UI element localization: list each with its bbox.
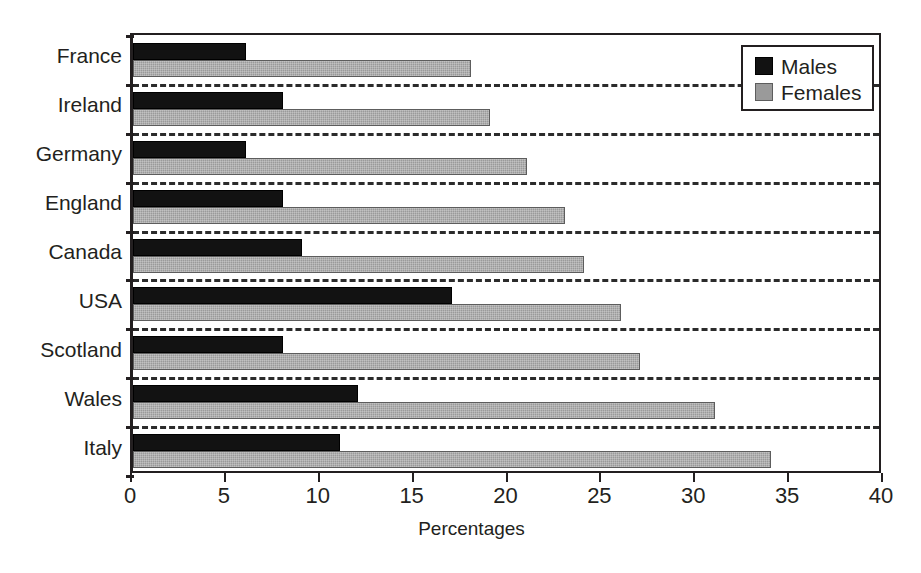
category-label-scotland: Scotland bbox=[0, 339, 122, 361]
category-label-france: France bbox=[0, 45, 122, 67]
bar-males-canada[interactable] bbox=[133, 239, 302, 256]
bar-males-germany[interactable] bbox=[133, 141, 246, 158]
category-label-ireland: Ireland bbox=[0, 94, 122, 116]
x-axis-title: Percentages bbox=[0, 518, 921, 540]
legend-label-males: Males bbox=[781, 56, 837, 77]
x-axis-tick-label: 0 bbox=[124, 484, 136, 508]
x-axis-tick-label: 40 bbox=[869, 484, 893, 508]
bar-females-italy[interactable] bbox=[133, 451, 771, 468]
y-axis-tick bbox=[126, 328, 134, 331]
bar-females-germany[interactable] bbox=[133, 158, 527, 175]
x-axis-tick bbox=[506, 473, 508, 482]
bar-females-canada[interactable] bbox=[133, 256, 584, 273]
legend: Males Females bbox=[741, 45, 874, 111]
bar-males-wales[interactable] bbox=[133, 385, 358, 402]
x-axis-tick bbox=[318, 473, 320, 482]
legend-item-females[interactable]: Females bbox=[755, 79, 872, 105]
bar-group-england bbox=[133, 182, 879, 231]
bar-males-france[interactable] bbox=[133, 43, 246, 60]
y-axis-tick bbox=[126, 133, 134, 136]
bar-group-italy bbox=[133, 426, 879, 471]
x-axis-tick bbox=[412, 473, 414, 482]
bar-group-canada bbox=[133, 231, 879, 280]
y-axis-tick bbox=[126, 84, 134, 87]
category-label-wales: Wales bbox=[0, 388, 122, 410]
x-axis-title-label: Percentages bbox=[418, 518, 525, 540]
category-label-england: England bbox=[0, 192, 122, 214]
bar-chart: FranceIrelandGermanyEnglandCanadaUSAScot… bbox=[0, 0, 921, 573]
bar-males-italy[interactable] bbox=[133, 434, 340, 451]
x-axis-tick bbox=[599, 473, 601, 482]
bar-group-germany bbox=[133, 133, 879, 182]
males-swatch-icon bbox=[755, 57, 773, 75]
females-swatch-icon bbox=[755, 83, 773, 101]
bar-females-usa[interactable] bbox=[133, 304, 621, 321]
x-axis-tick-label: 15 bbox=[399, 484, 423, 508]
bar-group-usa bbox=[133, 279, 879, 328]
x-axis-tick-label: 5 bbox=[218, 484, 230, 508]
x-axis-tick-label: 30 bbox=[681, 484, 705, 508]
bar-females-wales[interactable] bbox=[133, 402, 715, 419]
y-axis-tick bbox=[126, 279, 134, 282]
x-axis-tick-label: 25 bbox=[587, 484, 611, 508]
category-label-italy: Italy bbox=[0, 437, 122, 459]
bar-females-scotland[interactable] bbox=[133, 353, 640, 370]
legend-label-females: Females bbox=[781, 82, 862, 103]
x-axis-tick-label: 20 bbox=[493, 484, 517, 508]
category-label-canada: Canada bbox=[0, 241, 122, 263]
bar-males-england[interactable] bbox=[133, 190, 283, 207]
bar-group-wales bbox=[133, 377, 879, 426]
x-axis-tick-label: 10 bbox=[306, 484, 330, 508]
y-axis-tick bbox=[126, 377, 134, 380]
x-axis-tick bbox=[787, 473, 789, 482]
legend-item-males[interactable]: Males bbox=[755, 53, 872, 79]
x-axis-tick bbox=[224, 473, 226, 482]
bar-females-france[interactable] bbox=[133, 60, 471, 77]
x-axis-tick bbox=[693, 473, 695, 482]
y-axis-tick bbox=[126, 426, 134, 429]
y-axis-tick bbox=[126, 231, 134, 234]
x-axis-tick bbox=[130, 473, 132, 482]
bar-males-usa[interactable] bbox=[133, 287, 452, 304]
bar-males-scotland[interactable] bbox=[133, 336, 283, 353]
y-axis-tick bbox=[126, 182, 134, 185]
bar-group-scotland bbox=[133, 328, 879, 377]
category-label-germany: Germany bbox=[0, 143, 122, 165]
x-axis-tick bbox=[881, 473, 883, 482]
bar-females-ireland[interactable] bbox=[133, 109, 490, 126]
y-axis-tick bbox=[126, 35, 134, 38]
bar-females-england[interactable] bbox=[133, 207, 565, 224]
bar-males-ireland[interactable] bbox=[133, 92, 283, 109]
x-axis-tick-label: 35 bbox=[775, 484, 799, 508]
category-label-usa: USA bbox=[0, 290, 122, 312]
